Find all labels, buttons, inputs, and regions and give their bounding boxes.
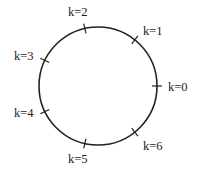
point-label-k3: k=3 bbox=[14, 49, 34, 63]
circle-diagram: k=0k=1k=2k=3k=4k=5k=6 bbox=[0, 0, 197, 174]
point-label-k4: k=4 bbox=[14, 106, 34, 120]
point-label-k1: k=1 bbox=[143, 24, 163, 38]
circle bbox=[39, 27, 157, 145]
point-label-k0: k=0 bbox=[168, 80, 188, 94]
point-label-k2: k=2 bbox=[68, 5, 88, 19]
point-label-k6: k=6 bbox=[143, 139, 163, 153]
point-label-k5: k=5 bbox=[68, 152, 88, 166]
